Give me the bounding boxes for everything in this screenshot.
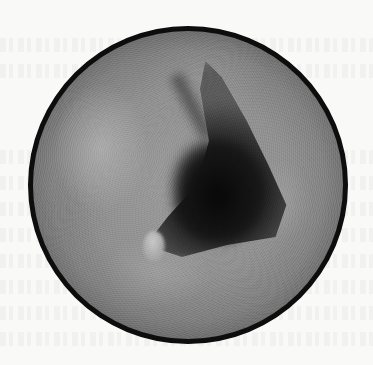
scope-image xyxy=(28,26,348,344)
film-grain xyxy=(33,31,343,339)
page xyxy=(0,0,373,365)
